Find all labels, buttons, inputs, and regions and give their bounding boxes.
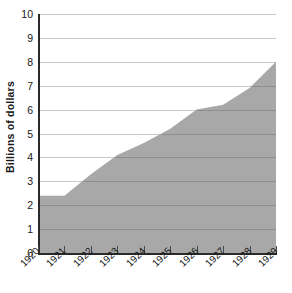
area-chart: Billions of dollars 012345678910 1920192… (0, 0, 292, 293)
x-tick-label: 1920 (18, 245, 42, 269)
x-tick-label: 1928 (230, 245, 254, 269)
x-tick-label: 1929 (256, 245, 280, 269)
x-tick-label: 1924 (124, 245, 148, 269)
x-tick-label: 1926 (177, 245, 201, 269)
x-tick-label: 1922 (71, 245, 95, 269)
x-tick-label: 1925 (150, 245, 174, 269)
x-tick-label: 1921 (44, 245, 68, 269)
x-tick-label: 1923 (97, 245, 121, 269)
x-tick-label: 1927 (203, 245, 227, 269)
x-axis-labels: 1920192119221923192419251926192719281929 (0, 0, 292, 293)
